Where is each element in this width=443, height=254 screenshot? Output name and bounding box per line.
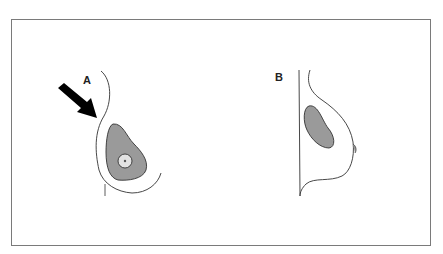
diagram-canvas (0, 0, 443, 254)
arrow-icon (58, 83, 97, 118)
panel-b (299, 70, 356, 196)
gland-region-b (304, 106, 334, 148)
panel-label-b: B (275, 71, 283, 83)
panel-a (58, 71, 161, 196)
chest-wall-line (299, 70, 300, 196)
gland-region-a (106, 124, 147, 180)
panel-label-a: A (83, 74, 91, 86)
